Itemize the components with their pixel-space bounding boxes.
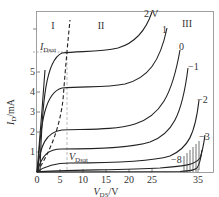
curve-label-m3: −3 — [199, 131, 210, 142]
curve-label-m1: −1 — [188, 61, 199, 72]
curve-label-m2: −2 — [197, 94, 208, 105]
curve-label-m8: −8 — [171, 154, 182, 165]
curve-labels: 2 V 1 0 −1 −2 −3 −8 — [144, 8, 210, 165]
x-tick-5: 5 — [58, 174, 63, 185]
breakdown-hatching — [184, 141, 199, 172]
jfet-output-characteristics-chart: 1 2 3 4 5 0 5 10 15 20 25 35 VDS/V ID/mA… — [0, 0, 219, 197]
vdsat-label: VDsat — [69, 151, 88, 164]
x-tick-25: 25 — [147, 174, 157, 185]
y-axis-title: ID/mA — [5, 98, 18, 126]
x-tick-20: 20 — [124, 174, 134, 185]
curve-label-0: 0 — [179, 41, 184, 52]
x-tick-0: 0 — [35, 174, 40, 185]
y-tick-5: 5 — [30, 66, 35, 77]
plot-frame — [37, 12, 214, 173]
characteristic-curves — [37, 12, 205, 172]
y-tick-3: 3 — [30, 106, 35, 117]
x-tick-labels: 0 5 10 15 20 25 35 — [35, 174, 204, 185]
x-tick-35: 35 — [193, 174, 203, 185]
curve-vgs-0v — [37, 50, 180, 172]
curve-label-2v: 2 V — [144, 8, 159, 19]
region-label-1: I — [51, 20, 54, 31]
y-tick-labels: 1 2 3 4 5 — [30, 66, 35, 157]
y-tick-1: 1 — [30, 146, 35, 157]
x-axis-title: VDS/V — [93, 186, 119, 197]
curve-vgs-m1v — [37, 68, 188, 172]
y-tick-2: 2 — [30, 126, 35, 137]
region-label-3: III — [182, 18, 192, 29]
x-tick-15: 15 — [101, 174, 111, 185]
curve-label-1: 1 — [162, 24, 167, 35]
curve-vgs-1v — [38, 28, 167, 172]
y-tick-4: 4 — [30, 86, 35, 97]
region-label-2: II — [98, 20, 105, 31]
x-tick-10: 10 — [78, 174, 88, 185]
